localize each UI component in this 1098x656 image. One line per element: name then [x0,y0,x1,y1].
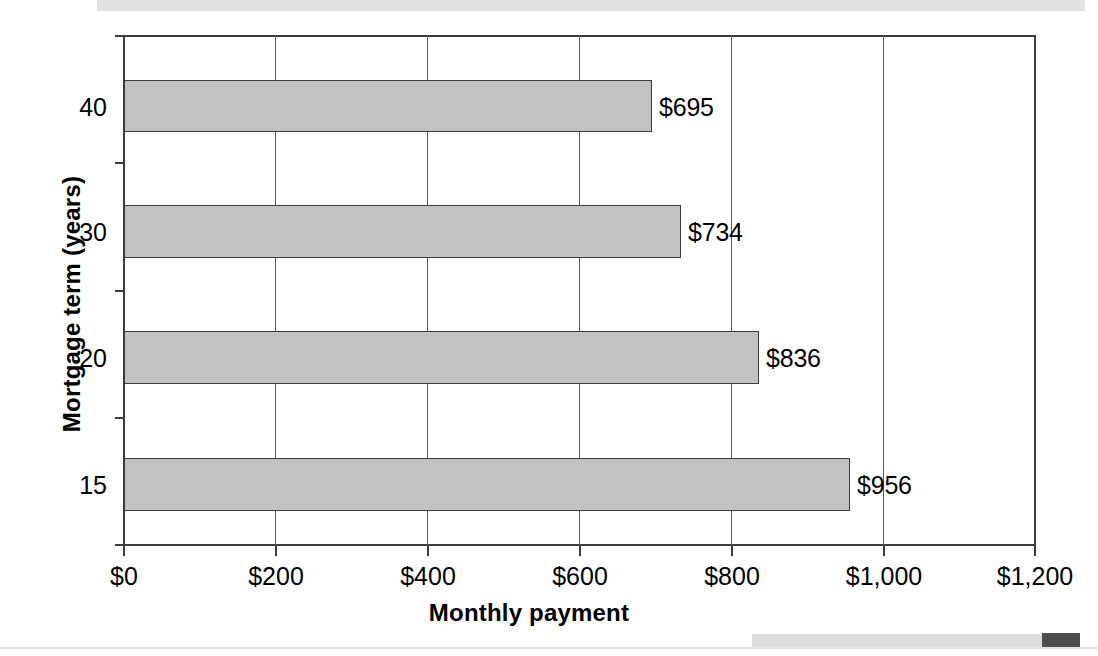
y-tick-mark [115,417,124,419]
x-tick-label-400: $400 [400,562,456,591]
x-tick-label-800: $800 [704,562,760,591]
y-tick-mark [115,162,124,164]
x-axis-title: Monthly payment [0,599,1098,627]
x-axis-title-text: Monthly payment [429,599,629,626]
y-tick-mark [115,290,124,292]
page-bottom-band [752,634,1080,647]
x-tick-mark [427,546,429,556]
page-bottom-block [1042,633,1080,648]
gridline-1000 [883,35,884,545]
x-tick-label-600: $600 [552,562,608,591]
x-tick-mark [579,546,581,556]
page-bottom-rule [0,647,1098,649]
bar-15[interactable] [124,458,850,511]
x-tick-mark [731,546,733,556]
x-tick-label-1200: $1,200 [997,562,1073,591]
bar-20[interactable] [124,331,759,384]
x-tick-label-0: $0 [110,562,138,591]
y-axis-title: Mortgage term (years) [58,64,86,544]
bar-30[interactable] [124,205,681,258]
x-tick-mark [123,546,125,556]
bar-value-label-30: $734 [688,218,743,247]
x-tick-mark [1034,546,1036,556]
plot-bottom-border [116,544,1035,546]
bar-value-label-20: $836 [766,344,821,373]
bar-value-label-40: $695 [659,93,714,122]
plot-right-border [1034,35,1036,546]
bar-chart: $695 $734 $836 $956 40 30 20 15 $0 $200 … [0,0,1098,656]
bar-40[interactable] [124,80,652,132]
x-tick-label-200: $200 [248,562,304,591]
plot-top-border [116,35,1035,37]
bar-value-label-15: $956 [857,471,912,500]
x-tick-mark [883,546,885,556]
y-tick-mark [115,35,124,37]
x-tick-label-1000: $1,000 [846,562,922,591]
x-tick-mark [275,546,277,556]
